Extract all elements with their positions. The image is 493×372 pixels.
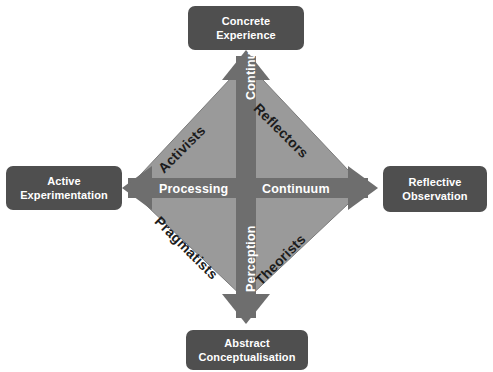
node-abstract-conceptualisation-line1: Abstract [224,336,269,350]
node-active-experimentation[interactable]: Active Experimentation [6,166,122,210]
node-reflective-observation-line2: Observation [402,189,467,203]
arrow-right-head [348,166,378,210]
node-concrete-experience[interactable]: Concrete Experience [188,6,304,50]
node-reflective-observation-line1: Reflective [409,175,462,189]
node-abstract-conceptualisation[interactable]: Abstract Conceptualisation [186,330,308,370]
node-active-experimentation-line1: Active [47,174,81,188]
axis-label-perception: Perception [244,225,258,292]
node-abstract-conceptualisation-line2: Conceptualisation [198,350,295,364]
arrow-down-head [222,294,270,324]
axis-label-processing: Processing [159,182,228,196]
node-reflective-observation[interactable]: Reflective Observation [383,166,487,212]
node-concrete-experience-line2: Experience [216,28,276,42]
axis-label-continuum-horizontal: Continuum [262,182,330,196]
node-active-experimentation-line2: Experimentation [20,188,108,202]
node-concrete-experience-line1: Concrete [222,14,270,28]
arrow-left-head [122,166,152,210]
